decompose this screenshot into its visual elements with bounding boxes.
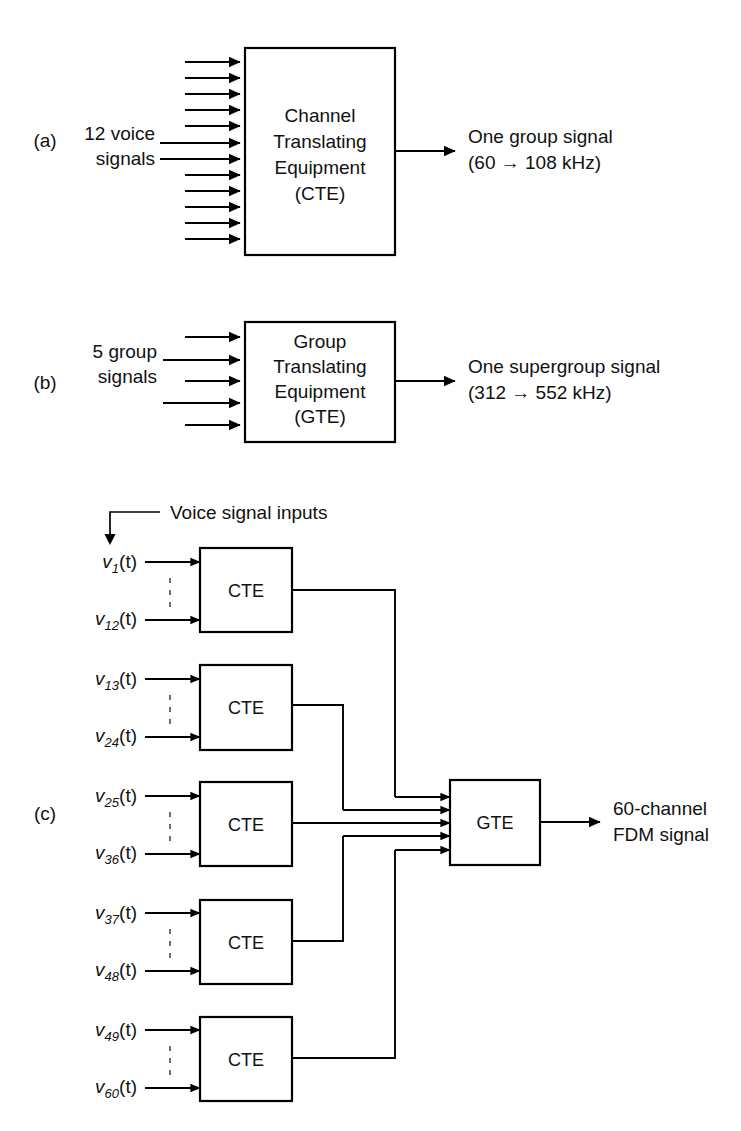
signal-label-v1-sub: 1 <box>112 561 119 576</box>
signal-label-v24-sub: 24 <box>104 735 119 750</box>
panel-a-output-line1: One group signal <box>468 126 613 147</box>
cte2-to-gte-route <box>292 705 343 810</box>
signal-label-v60-sub: 60 <box>105 1086 120 1101</box>
panel-a-input-label-line1: 12 voice <box>84 123 155 144</box>
signal-label-v24-arg: (t) <box>119 725 137 746</box>
cte-block-c5-label: CTE <box>228 1050 264 1070</box>
signal-label-v60: v60(t) <box>95 1076 137 1101</box>
cte-block-c4-label: CTE <box>228 933 264 953</box>
panel-a-output-line2: (60 → 108 kHz) <box>468 152 601 173</box>
cte-block-a-line1: Channel <box>285 105 356 126</box>
cte-block-a-line2: Translating <box>273 131 366 152</box>
panel-b-input-label-line1: 5 group <box>93 341 157 362</box>
signal-label-v12: v12(t) <box>95 608 137 633</box>
signal-label-v13-sub: 13 <box>105 678 120 693</box>
voice-signal-inputs-label: Voice signal inputs <box>170 502 327 523</box>
gte-block-b-line2: Translating <box>273 356 366 377</box>
panel-a-label: (a) <box>33 130 56 151</box>
signal-label-v12-arg: (t) <box>119 608 137 629</box>
panel-b-output-line2: (312 → 552 kHz) <box>468 382 612 403</box>
panel-b-label: (b) <box>33 372 56 393</box>
signal-label-v36: v36(t) <box>95 842 137 867</box>
gte-block-b-line4: (GTE) <box>294 406 346 427</box>
signal-label-v48: v48(t) <box>95 959 137 984</box>
gte-block-b-line1: Group <box>294 331 347 352</box>
signal-label-v12-sub: 12 <box>105 618 120 633</box>
panel-a: (a) 12 voice signals Channel Translating… <box>33 48 612 255</box>
panel-b-input-arrows <box>163 337 240 425</box>
panel-c: (c) Voice signal inputs v1(t) v12(t) CTE <box>34 502 709 1101</box>
signal-label-v49-arg: (t) <box>119 1019 137 1040</box>
cte-block-a-line3: Equipment <box>275 157 367 178</box>
signal-label-v48-arg: (t) <box>119 959 137 980</box>
signal-label-v1-arg: (t) <box>119 551 137 572</box>
panel-c-output-line1: 60-channel <box>613 798 707 819</box>
panel-c-label: (c) <box>34 803 56 824</box>
panel-b: (b) 5 group signals Group Translating Eq… <box>33 322 660 442</box>
signal-label-v37-arg: (t) <box>119 902 137 923</box>
signal-label-v13: v13(t) <box>95 668 137 693</box>
signal-label-v37-sub: 37 <box>105 912 120 927</box>
signal-label-v25-arg: (t) <box>119 785 137 806</box>
signal-label-v48-sub: 48 <box>105 969 120 984</box>
cte-block-c2-label: CTE <box>228 698 264 718</box>
signal-label-v49: v49(t) <box>95 1019 137 1044</box>
signal-label-v25: v25(t) <box>95 785 137 810</box>
voice-input-annotation-leader <box>104 512 160 545</box>
panel-c-output-line2: FDM signal <box>613 824 709 845</box>
gte-block-b-line3: Equipment <box>275 381 367 402</box>
signal-label-v25-sub: 25 <box>104 795 120 810</box>
cte-block-c1-label: CTE <box>228 581 264 601</box>
signal-label-v60-arg: (t) <box>119 1076 137 1097</box>
cte-block-a-line4: (CTE) <box>295 183 346 204</box>
signal-label-v1: v1(t) <box>102 551 137 576</box>
gte-block-c-label: GTE <box>476 813 513 833</box>
signal-label-v36-arg: (t) <box>119 842 137 863</box>
cte-group-3: v25(t) v36(t) CTE <box>95 782 443 867</box>
cte-block-c3-label: CTE <box>228 815 264 835</box>
signal-label-v49-sub: 49 <box>105 1029 119 1044</box>
panel-b-output-line1: One supergroup signal <box>468 356 660 377</box>
panel-a-input-arrows <box>160 62 240 239</box>
panel-a-input-label-line2: signals <box>96 148 155 169</box>
signal-label-v24: v24(t) <box>95 725 137 750</box>
signal-label-v36-sub: 36 <box>105 852 120 867</box>
signal-label-v37: v37(t) <box>95 902 137 927</box>
signal-label-v13-arg: (t) <box>119 668 137 689</box>
cte4-to-gte-route <box>292 836 343 941</box>
figure-canvas: (a) 12 voice signals Channel Translating… <box>0 0 741 1131</box>
panel-b-input-label-line2: signals <box>98 366 157 387</box>
